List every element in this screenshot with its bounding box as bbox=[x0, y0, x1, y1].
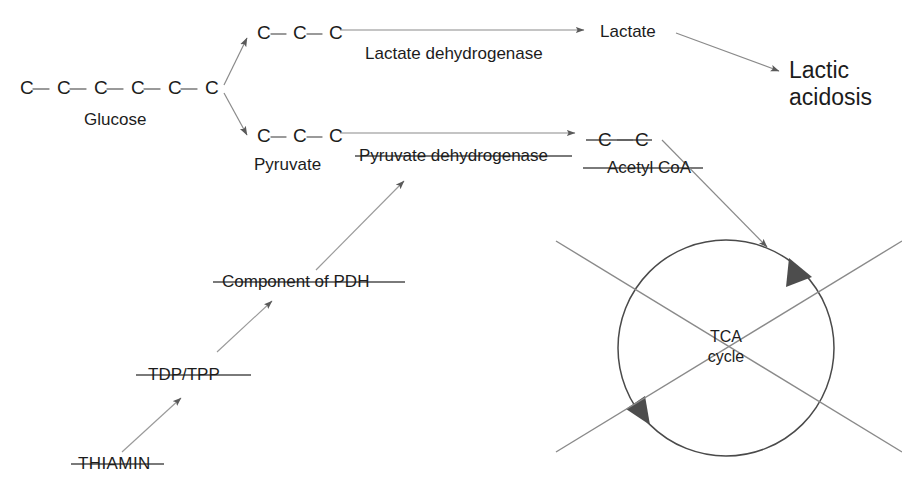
lactate-chain-carbon-2: C bbox=[293, 22, 307, 44]
lactate-label: Lactate bbox=[600, 22, 656, 42]
glucose-carbon-2: C bbox=[57, 77, 71, 99]
lactic-acidosis-line2: acidosis bbox=[789, 84, 872, 110]
tca-cycle-direction-arrowhead-upper bbox=[786, 258, 812, 287]
pathway-vector-layer bbox=[0, 0, 902, 491]
pyruvate-dehydrogenase-label: Pyruvate dehydrogenase bbox=[359, 146, 548, 166]
acetyl-coa-carbon-2: C bbox=[635, 129, 649, 151]
pyruvate-carbon-2: C bbox=[293, 125, 307, 147]
acetyl-coa-label: Acetyl CoA bbox=[607, 158, 691, 178]
glucose-carbon-1: C bbox=[20, 77, 34, 99]
glucose-label: Glucose bbox=[84, 110, 146, 130]
lactate-chain-carbon-3: C bbox=[329, 22, 343, 44]
acetyl-coa-carbon-1: C bbox=[598, 129, 612, 151]
pyruvate-carbon-1: C bbox=[257, 125, 271, 147]
arrow-glucose-to-lactate-branch bbox=[224, 38, 247, 85]
tca-cycle-direction-arrowhead-lower bbox=[626, 396, 650, 425]
arrow-tdp-tpp-to-component-of-pdh bbox=[217, 301, 272, 352]
glucose-carbon-3: C bbox=[94, 77, 108, 99]
arrow-component-of-pdh-to-pyruvate-dehydrogenase bbox=[316, 181, 404, 270]
arrow-acetyl-coa-to-tca-cycle bbox=[662, 140, 767, 247]
lactic-acidosis-line1: Lactic bbox=[789, 57, 849, 83]
tdp-tpp-label: TDP/TPP bbox=[148, 365, 220, 385]
glucose-carbon-4: C bbox=[131, 77, 145, 99]
arrow-lactate-to-lactic-acidosis bbox=[676, 33, 779, 71]
lactate-dehydrogenase-label: Lactate dehydrogenase bbox=[365, 44, 543, 64]
pyruvate-carbon-3: C bbox=[329, 125, 343, 147]
thiamin-label: THIAMIN bbox=[78, 454, 151, 474]
glucose-carbon-5: C bbox=[168, 77, 182, 99]
pyruvate-label: Pyruvate bbox=[254, 155, 321, 175]
glucose-carbon-6: C bbox=[205, 77, 219, 99]
arrow-thiamin-to-tdp-tpp bbox=[122, 398, 181, 452]
tca-cycle-line1: TCA bbox=[681, 328, 771, 346]
component-of-pdh-label: Component of PDH bbox=[222, 272, 369, 292]
lactate-chain-carbon-1: C bbox=[257, 22, 271, 44]
diagram-canvas: C C C C C C Glucose C C C Lactate dehydr… bbox=[0, 0, 902, 491]
arrow-glucose-to-pyruvate-branch bbox=[224, 93, 247, 135]
tca-cycle-line2: cycle bbox=[681, 348, 771, 366]
